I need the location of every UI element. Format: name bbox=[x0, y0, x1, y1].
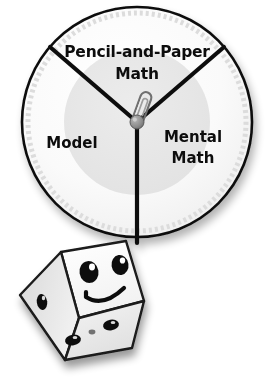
spinner-wheel[interactable]: Pencil-and-Paper Math Model Mental Math bbox=[22, 7, 252, 243]
section-label-mental-math-line2: Math bbox=[172, 149, 215, 167]
smiling-die[interactable] bbox=[20, 241, 144, 360]
section-label-pencil-and-paper-math-line2: Math bbox=[115, 65, 159, 83]
section-label-mental-math-line1: Mental bbox=[164, 128, 222, 146]
die-bottom-face-pip-1-highlight bbox=[111, 321, 116, 324]
die-left-face-pip-highlight bbox=[42, 296, 45, 300]
die-left-eye-highlight bbox=[89, 264, 95, 271]
spinner-pivot-highlight bbox=[133, 118, 137, 122]
die-bottom-face-pip-2-highlight bbox=[73, 336, 78, 339]
die-right-eye-highlight bbox=[120, 257, 125, 263]
spinner-section-model[interactable]: Model bbox=[46, 134, 97, 152]
illustration-canvas: Pencil-and-Paper Math Model Mental Math bbox=[0, 0, 266, 380]
spinner-pivot-hub[interactable] bbox=[130, 115, 144, 129]
section-label-pencil-and-paper-math-line1: Pencil-and-Paper bbox=[64, 43, 210, 61]
die-bottom-face-pip-3 bbox=[89, 330, 96, 335]
spinner-and-die-illustration: Pencil-and-Paper Math Model Mental Math bbox=[0, 0, 266, 380]
section-label-model: Model bbox=[46, 134, 97, 152]
